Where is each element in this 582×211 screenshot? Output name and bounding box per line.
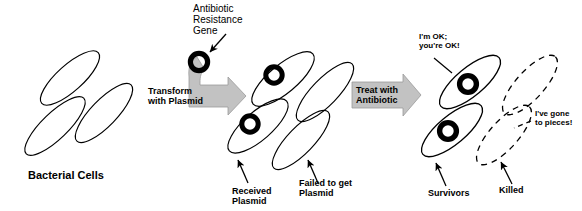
received-plasmid-label: Received Plasmid (232, 186, 272, 206)
survivor-cell (414, 95, 490, 165)
gone-to-pieces-leader-line (514, 121, 531, 128)
treat-arrow-label: Treat with Antibiotic (356, 85, 398, 106)
killed-pointer (501, 162, 512, 184)
im-ok-leader-line (434, 58, 452, 73)
killed-label: Killed (499, 185, 524, 195)
survivors-label: Survivors (428, 188, 470, 198)
transform-arrow-label: Transform with Plasmid (148, 86, 203, 107)
plasmid-ring-survivor (460, 76, 477, 93)
transformed-cells-group (220, 43, 361, 177)
killed-cell (468, 97, 540, 172)
plasmid-ring-in-cell (266, 67, 282, 83)
bacterial-cells-group (17, 43, 140, 163)
bacterial-cell (68, 76, 141, 150)
plasmid-ring-survivor (440, 123, 457, 140)
cell-without-plasmid (265, 103, 338, 177)
bacterial-cell (17, 89, 93, 163)
bacterial-cells-label: Bacterial Cells (28, 169, 104, 181)
plasmid-ring-in-cell (242, 116, 258, 132)
received-plasmid-pointer (238, 160, 248, 183)
survivors-pointer (436, 163, 446, 186)
transformation-diagram: Bacterial Cells Antibiotic Resistance Ge… (0, 0, 582, 211)
survivor-cell (432, 47, 508, 117)
gene-pointer-arrow (210, 34, 226, 52)
survivor-cells-group (414, 47, 508, 165)
im-ok-speech-label: I'm OK; you're OK! (419, 33, 460, 51)
gone-to-pieces-speech-label: I've gone to pieces! (535, 110, 572, 128)
cell-without-plasmid (289, 55, 362, 129)
failed-to-get-plasmid-label: Failed to get Plasmid (299, 178, 352, 198)
antibiotic-resistance-gene-label: Antibiotic Resistance Gene (193, 3, 242, 37)
